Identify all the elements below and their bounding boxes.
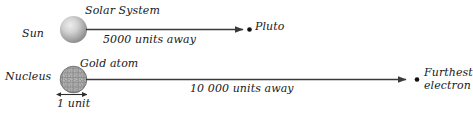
pluto-label: Pluto <box>255 21 285 34</box>
pluto-dot-icon <box>247 27 252 32</box>
solar-system-title: Solar System <box>85 5 160 18</box>
sun-label: Sun <box>22 28 44 41</box>
nucleus-size-label: 1 unit <box>57 98 90 111</box>
furthest-electron-label-line1: Furthest <box>424 66 473 79</box>
gold-atom-distance-label: 10 000 units away <box>190 83 294 96</box>
scale-comparison-diagram: Sun Solar System 5000 units away Pluto N… <box>0 0 473 115</box>
gold-atom-title: Gold atom <box>80 58 138 71</box>
furthest-electron-label-line2: electron <box>424 79 471 92</box>
nucleus-label: Nucleus <box>5 71 51 84</box>
furthest-electron-dot-icon <box>415 77 420 82</box>
furthest-electron-label: Furthestelectron <box>424 67 473 92</box>
shaded-sphere-icon <box>60 16 87 43</box>
solar-system-distance-label: 5000 units away <box>103 34 196 47</box>
